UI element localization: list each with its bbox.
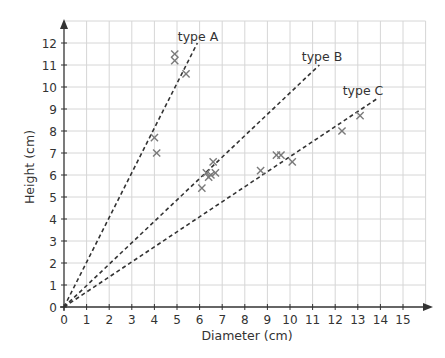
- x-tick-label: 15: [395, 313, 410, 327]
- scatter-chart: 0123456789101112131415 0123456789101112 …: [0, 0, 445, 358]
- cross-marker-icon: [182, 70, 189, 77]
- x-tick-label: 9: [264, 313, 272, 327]
- x-tick-label: 1: [83, 313, 91, 327]
- x-tick-label: 3: [128, 313, 136, 327]
- x-tick-label: 0: [60, 313, 68, 327]
- x-tick-label: 14: [373, 313, 388, 327]
- data-points: [151, 50, 364, 191]
- x-tick-label: 13: [350, 313, 365, 327]
- x-tick-label: 11: [305, 313, 320, 327]
- y-tick-label: 3: [49, 235, 57, 249]
- trend-line-type-b: [64, 65, 319, 307]
- x-axis-arrow-icon: [423, 303, 433, 311]
- type-a-label: type A: [178, 29, 219, 44]
- y-tick-label: 10: [42, 81, 57, 95]
- x-tick-label: 10: [282, 313, 297, 327]
- y-tick-label: 9: [49, 103, 57, 117]
- y-tick-label: 0: [49, 301, 57, 315]
- type-b-label: type B: [302, 49, 342, 64]
- x-axis-label: Diameter (cm): [201, 328, 292, 343]
- y-tick-label: 12: [42, 37, 57, 51]
- y-tick-labels: 0123456789101112: [42, 37, 67, 315]
- x-tick-label: 2: [105, 313, 113, 327]
- y-tick-label: 5: [49, 191, 57, 205]
- y-tick-label: 6: [49, 169, 57, 183]
- trend-line-type-c: [64, 98, 378, 307]
- x-tick-label: 4: [151, 313, 159, 327]
- type-c-label: type C: [343, 83, 384, 98]
- x-tick-label: 8: [241, 313, 249, 327]
- x-tick-label: 6: [196, 313, 204, 327]
- y-tick-label: 7: [49, 147, 57, 161]
- cross-marker-icon: [257, 167, 264, 174]
- y-tick-label: 2: [49, 257, 57, 271]
- cross-marker-icon: [210, 158, 217, 165]
- y-tick-label: 1: [49, 279, 57, 293]
- x-tick-label: 5: [173, 313, 181, 327]
- y-tick-label: 11: [42, 59, 57, 73]
- y-axis-label: Height (cm): [22, 130, 37, 204]
- x-tick-label: 7: [218, 313, 226, 327]
- x-tick-label: 12: [328, 313, 343, 327]
- y-tick-label: 4: [49, 213, 57, 227]
- y-tick-label: 8: [49, 125, 57, 139]
- grid: [64, 21, 426, 307]
- axes: [60, 19, 433, 311]
